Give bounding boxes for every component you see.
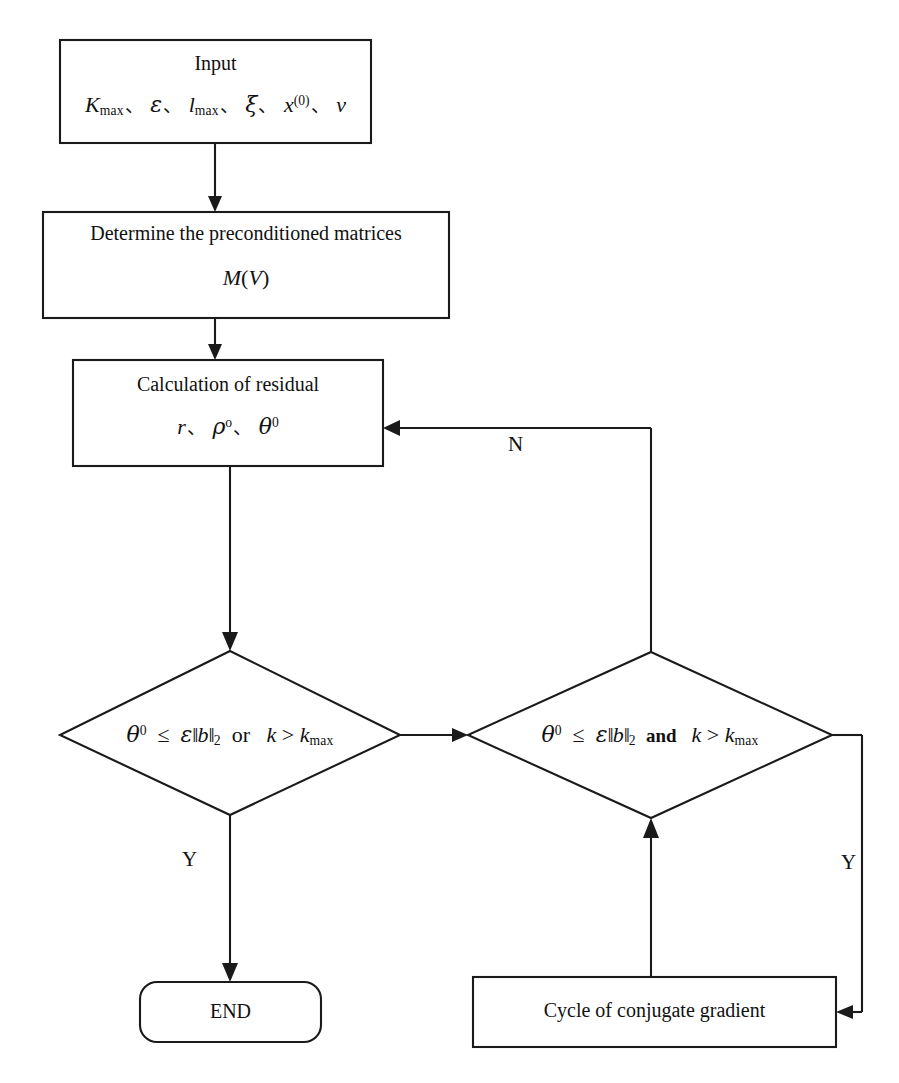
node-decision-and-condition: θ0 ≤ ε‖b‖2 and k > kmax — [485, 722, 815, 749]
flowchart-diagram: Input Kmax、 ε、 lmax、 ξ、 x(0)、 v Determin… — [0, 0, 899, 1083]
node-preconditioner-formula: M(V) — [43, 265, 449, 290]
flowchart-shapes-layer — [0, 0, 899, 1083]
arrowhead-residual-to-decision-or — [222, 632, 238, 651]
edge-label-yes-left: Y — [182, 847, 197, 872]
edge-label-yes-right: Y — [841, 850, 856, 875]
arrowhead-input-to-preconditioner — [208, 196, 222, 212]
node-residual-title: Calculation of residual — [73, 373, 383, 396]
node-decision-or-condition: θ0 ≤ ε‖b‖2 or k > kmax — [85, 722, 375, 749]
node-residual-formula: r、 ρo、 θ0 — [73, 414, 383, 439]
node-cycle-title: Cycle of conjugate gradient — [473, 999, 836, 1022]
node-input-title: Input — [60, 52, 371, 75]
arrowhead-preconditioner-to-residual — [208, 344, 222, 360]
node-preconditioner-title: Determine the preconditioned matrices — [43, 222, 449, 245]
arrowhead-decision-or-to-decision-and — [452, 728, 468, 742]
node-input-formula: Kmax、 ε、 lmax、 ξ、 x(0)、 v — [60, 92, 371, 119]
arrowhead-decision-or-to-end — [222, 963, 238, 982]
arrowhead-decision-and-to-cycle — [836, 1005, 853, 1019]
arrowhead-decision-and-no-to-residual — [383, 420, 400, 436]
node-end-title: END — [140, 1000, 321, 1023]
edge-label-no: N — [508, 432, 523, 457]
arrowhead-cycle-to-decision-and — [643, 818, 659, 838]
